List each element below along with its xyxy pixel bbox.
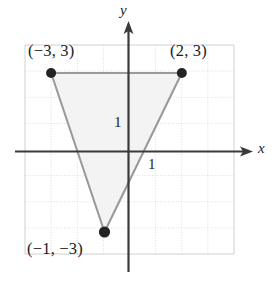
vertex-point-a	[46, 68, 56, 78]
vertex-point-b	[177, 68, 187, 78]
vertex-label-b: (2, 3)	[170, 43, 207, 60]
vertex-point-c	[99, 226, 110, 237]
x-axis-label: x	[258, 141, 265, 156]
y-unit-tick-label: 1	[114, 115, 122, 130]
graph-figure: (−3, 3) (2, 3) (−1, −3) y x 1 1	[0, 0, 280, 282]
vertex-label-c: (−1, −3)	[27, 241, 83, 258]
x-unit-tick-label: 1	[148, 157, 156, 172]
y-axis-label: y	[120, 3, 127, 18]
vertex-label-a: (−3, 3)	[28, 43, 74, 60]
